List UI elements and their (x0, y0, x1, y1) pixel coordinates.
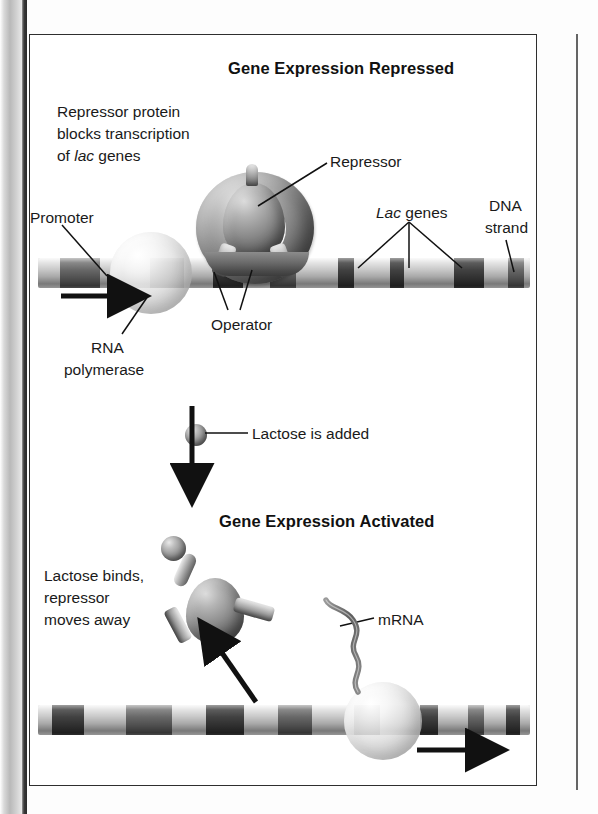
dna-band (454, 258, 484, 288)
rna-polymerase-top (110, 232, 192, 314)
page-canvas: Gene Expression Repressed Gene Expressio… (0, 0, 598, 814)
dna-band (420, 705, 438, 735)
label-rna-polymerase-line2: polymerase (64, 360, 144, 379)
label-repressor: Repressor (330, 152, 402, 171)
book-gutter-shadow (0, 0, 22, 814)
label-promoter: Promoter (30, 208, 94, 227)
label-lactose-is-added: Lactose is added (252, 424, 369, 443)
label-repressor-note-line2: blocks transcription (57, 124, 190, 143)
dna-band (468, 705, 484, 735)
label-repressor-note-line3-pre: of (57, 147, 74, 164)
label-lac-genes: Lac genes (376, 203, 448, 222)
label-repressor-note-line3-post: genes (94, 147, 141, 164)
label-operator: Operator (211, 315, 272, 334)
lactose-molecule-bound (161, 536, 186, 561)
dna-band (52, 705, 84, 735)
lactose-molecule-free (185, 424, 207, 446)
label-lactose-binds-line3: moves away (44, 610, 130, 629)
dna-band (508, 258, 524, 288)
label-lac-genes-rest: genes (401, 204, 448, 221)
column-divider-rule (576, 34, 578, 790)
dna-band (126, 705, 172, 735)
label-lactose-binds-line1: Lactose binds, (44, 566, 144, 585)
label-dna-strand-line2: strand (485, 218, 528, 237)
panel-title-repressed: Gene Expression Repressed (228, 59, 454, 78)
label-mrna: mRNA (378, 610, 424, 629)
label-repressor-note-line1: Repressor protein (57, 102, 180, 121)
dna-band (390, 258, 404, 288)
book-gutter-edge (22, 0, 27, 814)
dna-loop-under-repressor (205, 252, 309, 276)
dna-band (206, 705, 244, 735)
dna-band (506, 705, 520, 735)
dna-band (338, 258, 354, 288)
dna-strand-bottom (38, 705, 530, 735)
label-dna-strand-line1: DNA (489, 196, 522, 215)
label-lac-genes-italic: Lac (376, 204, 401, 221)
label-lactose-binds-line2: repressor (44, 588, 109, 607)
label-repressor-note-line3: of lac genes (57, 146, 141, 165)
dna-band (60, 258, 100, 288)
label-repressor-note-line3-italic: lac (74, 147, 94, 164)
panel-title-activated: Gene Expression Activated (219, 512, 435, 531)
repressor-top-stalk (246, 164, 258, 186)
rna-polymerase-bottom (344, 682, 422, 760)
dna-band (278, 705, 312, 735)
label-rna-polymerase-line1: RNA (91, 338, 124, 357)
